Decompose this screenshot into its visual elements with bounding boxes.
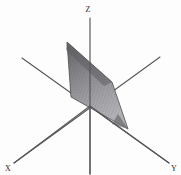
z-axis-label: Z: [86, 5, 91, 14]
x-axis-label: X: [5, 164, 11, 173]
y-axis-label: Y: [171, 164, 177, 173]
figure-root: Z X Y: [0, 0, 181, 175]
three-d-axes-figure: Z X Y: [0, 0, 181, 175]
